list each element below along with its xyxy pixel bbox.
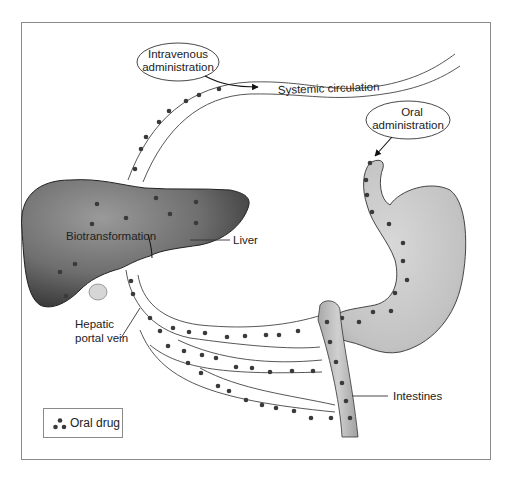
svg-text:Liver: Liver xyxy=(233,234,258,246)
hepatic-portal-vein-label: Hepatic portal vein xyxy=(75,308,140,344)
oral-administration-label: Oral administration xyxy=(366,101,450,156)
three-dots-icon xyxy=(52,417,68,431)
systemic-circulation-label: Systemic circulation xyxy=(278,80,380,96)
liver xyxy=(22,180,250,307)
svg-text:Hepatic: Hepatic xyxy=(75,318,114,330)
svg-text:Intravenous: Intravenous xyxy=(148,48,208,60)
svg-text:administration: administration xyxy=(142,61,214,73)
systemic-drug-dots xyxy=(133,87,222,172)
stomach xyxy=(330,160,466,353)
intravenous-administration-label: Intravenous administration xyxy=(137,43,258,87)
portal-drug-dots xyxy=(129,279,334,421)
svg-text:administration: administration xyxy=(372,119,444,131)
svg-text:Oral: Oral xyxy=(401,106,423,118)
legend: Oral drug xyxy=(43,408,123,438)
biotransformation-label: Biotransformation xyxy=(66,230,156,242)
intestines-label: Intestines xyxy=(352,390,442,402)
svg-text:Intestines: Intestines xyxy=(393,390,442,402)
svg-text:portal vein: portal vein xyxy=(75,332,128,344)
legend-label: Oral drug xyxy=(70,416,120,430)
